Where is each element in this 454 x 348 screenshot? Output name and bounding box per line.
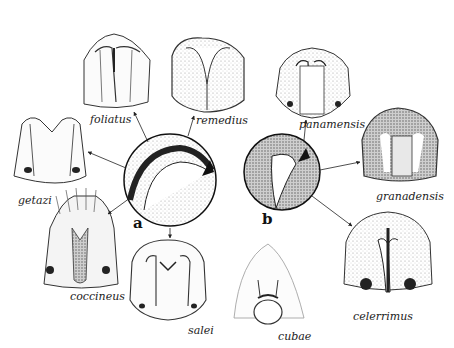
label-cubae: cubae xyxy=(278,330,311,343)
label-granadensis: granadensis xyxy=(376,190,444,203)
label-remedius: remedius xyxy=(196,114,248,127)
magnified-detail-b xyxy=(244,134,320,210)
label-salei: salei xyxy=(188,324,214,337)
specimen-panamensis xyxy=(276,48,350,118)
specimen-cubae xyxy=(234,244,304,324)
label-celerrimus: celerrimus xyxy=(353,310,413,323)
specimen-remedius xyxy=(172,38,244,112)
specimen-getazi xyxy=(14,118,86,183)
label-panamensis: panamensis xyxy=(299,118,365,131)
specimen-celerrimus xyxy=(344,212,432,292)
magnified-detail-a xyxy=(124,134,216,226)
specimen-salei xyxy=(130,240,206,320)
label-foliatus: foliatus xyxy=(90,113,131,126)
panel-label-a: a xyxy=(133,214,143,232)
specimen-granadensis xyxy=(362,108,438,181)
illustration-svg xyxy=(0,0,454,348)
label-coccineus: coccineus xyxy=(70,290,125,303)
specimen-coccineus xyxy=(44,188,118,288)
specimen-foliatus xyxy=(84,34,150,108)
label-getazi: getazi xyxy=(18,194,52,207)
panel-label-b: b xyxy=(262,210,273,228)
figure-canvas: foliatus remedius getazi coccineus salei… xyxy=(0,0,454,348)
